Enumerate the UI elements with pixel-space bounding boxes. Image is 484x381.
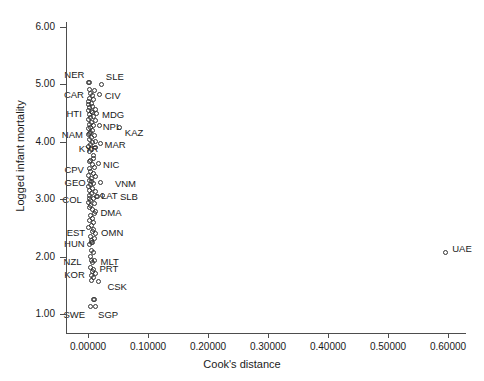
x-tick-mark	[328, 333, 329, 338]
data-point-label-sgp: SGP	[98, 310, 118, 320]
x-axis-title: Cook's distance	[0, 358, 484, 370]
data-point-prt	[93, 271, 98, 276]
data-point-car	[88, 91, 93, 96]
y-tick-label: 3.00	[0, 194, 55, 204]
data-point-hun	[89, 240, 94, 245]
data-point	[92, 297, 97, 302]
data-point-swe	[88, 304, 93, 309]
x-tick-mark	[88, 333, 89, 338]
y-tick-label: 6.00	[0, 22, 55, 32]
data-point-label-ner: NER	[64, 70, 84, 80]
data-point-civ	[97, 92, 102, 97]
data-point-label-mar: MAR	[105, 140, 126, 150]
y-tick-label: 1.00	[0, 309, 55, 319]
data-point-label-est: EST	[67, 228, 85, 238]
data-point-label-hti: HTI	[67, 109, 82, 119]
y-tick-label: 5.00	[0, 79, 55, 89]
data-point-vnm	[98, 180, 103, 185]
data-point-label-nic: NIC	[103, 160, 119, 170]
data-point-label-geo: GEO	[65, 178, 86, 188]
data-point-sle	[99, 82, 104, 87]
y-axis-line	[66, 22, 67, 334]
data-point-label-uae: UAE	[452, 244, 472, 254]
x-tick-mark	[148, 333, 149, 338]
data-point-label-csk: CSK	[107, 282, 127, 292]
x-tick-mark	[388, 333, 389, 338]
data-point-mlt	[92, 258, 97, 263]
data-point	[93, 174, 98, 179]
data-point-npl	[97, 123, 102, 128]
data-point-nic	[96, 161, 101, 166]
data-point-label-nam: NAM	[62, 130, 83, 140]
y-tick-mark	[60, 27, 66, 28]
data-point-label-civ: CIV	[105, 91, 121, 101]
x-axis-line	[66, 333, 466, 334]
data-point-label-dma: DMA	[100, 208, 121, 218]
y-tick-mark	[60, 142, 66, 143]
scatter-plot-area: NERSLECARCIVHTIMDGNPLKAZNAMMARKYRNICCPVG…	[0, 0, 484, 381]
x-tick-label: 0.60000	[413, 342, 483, 352]
data-point-uae	[443, 250, 448, 255]
y-axis-title: Logged infant mortality	[14, 81, 26, 231]
data-point-col	[87, 196, 92, 201]
data-point-dma	[93, 209, 98, 214]
x-tick-mark	[448, 333, 449, 338]
data-point-label-omn: OMN	[101, 228, 123, 238]
data-point-mdg	[94, 111, 99, 116]
x-tick-mark	[208, 333, 209, 338]
y-tick-mark	[60, 199, 66, 200]
y-tick-label: 2.00	[0, 252, 55, 262]
data-point-label-kor: KOR	[64, 270, 85, 280]
data-point-label-slb: SLB	[120, 192, 138, 202]
data-point-label-hun: HUN	[64, 239, 85, 249]
data-point-ner	[87, 80, 92, 85]
data-point	[89, 278, 94, 283]
y-tick-mark	[60, 314, 66, 315]
y-tick-label: 4.00	[0, 137, 55, 147]
data-point-omn	[93, 231, 98, 236]
y-tick-mark	[60, 84, 66, 85]
data-point-label-kaz: KAZ	[125, 128, 143, 138]
data-point-label-prt: PRT	[100, 264, 119, 274]
data-point-mar	[98, 141, 103, 146]
x-tick-mark	[268, 333, 269, 338]
data-point-label-vnm: VNM	[115, 179, 136, 189]
data-point-label-mdg: MDG	[102, 110, 124, 120]
data-point-geo	[89, 179, 94, 184]
data-point-label-sle: SLE	[106, 72, 124, 82]
data-point-label-kyr: KYR	[79, 144, 99, 154]
data-point-slb	[100, 193, 105, 198]
chart-root: NERSLECARCIVHTIMDGNPLKAZNAMMARKYRNICCPVG…	[0, 0, 484, 381]
data-point-csk	[96, 279, 101, 284]
y-tick-mark	[60, 257, 66, 258]
data-point-label-cpv: CPV	[64, 165, 84, 175]
